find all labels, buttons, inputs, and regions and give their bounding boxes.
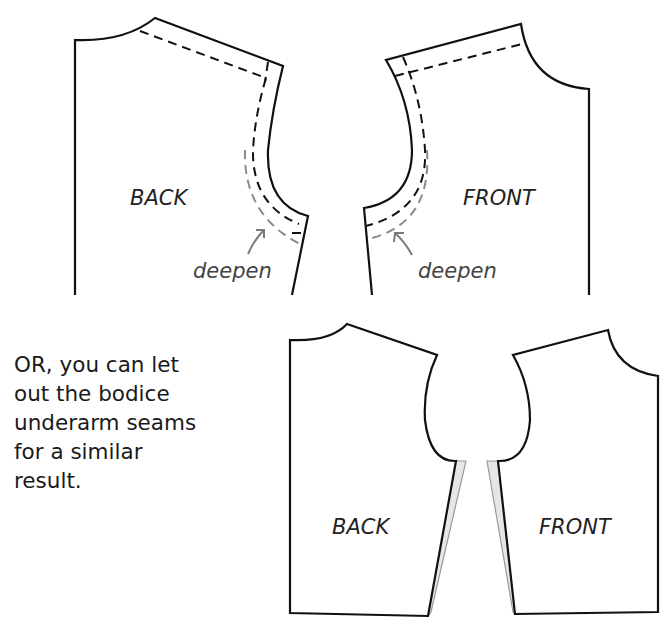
bottom-front-label: FRONT [539,515,613,539]
bodice-diagram: BACK deepen FRONT deepen BACK FRONT [0,0,668,627]
top-front-deepen-label: deepen [418,259,497,283]
top-back-piece: BACK deepen [75,18,308,295]
top-back-label: BACK [130,186,189,210]
top-front-outline [364,24,589,295]
top-front-label: FRONT [463,186,537,210]
top-front-piece: FRONT deepen [364,24,589,295]
top-back-deepen-label: deepen [193,259,272,283]
bottom-back-piece: BACK [290,324,466,616]
bottom-back-label: BACK [332,515,391,539]
bottom-front-piece: FRONT [487,330,658,614]
top-back-outline [75,18,308,295]
bottom-back-outline [290,324,456,616]
instruction-note: OR, you can let out the bodice underarm … [14,350,254,495]
bottom-front-outline [498,330,658,614]
